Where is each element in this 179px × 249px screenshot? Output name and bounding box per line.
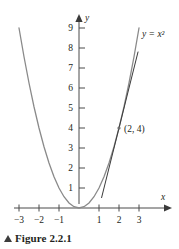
graph-svg: −3 −2 −1 1 2 3 1 2 3 4 5 6 7 8 9 [0,0,179,228]
x-tick-label: −2 [34,215,44,225]
y-tick-label: 7 [68,63,73,73]
y-axis-tick-labels: 1 2 3 4 5 6 7 8 9 [68,23,73,193]
y-axis-arrowhead [75,14,82,22]
y-tick-label: 9 [68,23,73,33]
figure-caption: Figure 2.2.1 [4,229,176,247]
x-tick-label: −1 [54,215,64,225]
y-tick-label: 2 [68,163,73,173]
figure-caption-text: Figure 2.2.1 [15,232,72,244]
tangency-point-marker [117,126,120,129]
y-tick-label: 6 [68,83,73,93]
x-axis-tick-labels: −3 −2 −1 1 2 3 [14,215,142,225]
y-tick-label: 5 [68,103,73,113]
axes-group [14,14,172,212]
x-axis-label: x [160,192,166,202]
y-axis-label: y [84,13,90,23]
y-tick-label: 4 [68,123,73,133]
x-tick-label: 2 [117,215,122,225]
y-tick-label: 1 [68,183,73,193]
plot-area: −3 −2 −1 1 2 3 1 2 3 4 5 6 7 8 9 [0,0,179,228]
y-tick-label: 3 [68,143,73,153]
figure-container: −3 −2 −1 1 2 3 1 2 3 4 5 6 7 8 9 [0,0,179,249]
curve-equation-label: y = x² [141,29,165,39]
y-axis-ticks [79,28,85,188]
x-tick-label: −3 [14,215,24,225]
triangle-up-icon [4,235,12,242]
y-tick-label: 8 [68,43,73,53]
x-axis-arrowhead [164,204,172,211]
x-tick-label: 1 [97,215,102,225]
tangency-point-label: (2, 4) [124,124,145,135]
x-tick-label: 3 [137,215,142,225]
